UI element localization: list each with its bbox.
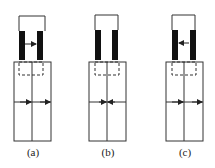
right-bar (190, 30, 196, 60)
left-bar (95, 30, 101, 60)
panel-label-a: (a) (13, 146, 53, 158)
panel-label-b: (b) (88, 146, 128, 158)
dashed-box (19, 62, 43, 75)
right-bar (112, 30, 118, 60)
left-bar (19, 31, 25, 60)
panel-c (166, 15, 203, 141)
figure-diagram (0, 0, 215, 168)
top-bracket (95, 15, 118, 30)
right-bar (37, 31, 43, 60)
panel-b (89, 15, 126, 141)
top-bracket (172, 15, 195, 30)
top-bracket (19, 16, 45, 31)
panel-label-c: (c) (165, 146, 205, 158)
left-bar (172, 30, 178, 60)
panel-a (14, 16, 51, 141)
